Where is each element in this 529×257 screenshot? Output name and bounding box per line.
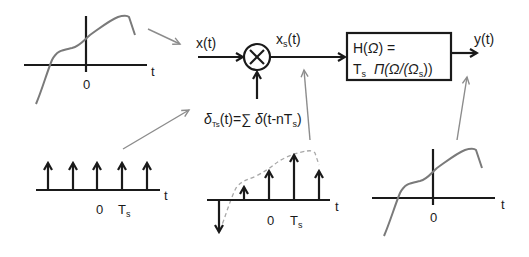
- t-axis-label: t: [335, 199, 339, 214]
- pointer-to-impulse-formula: [123, 110, 189, 149]
- origin-label: 0: [96, 202, 103, 217]
- output-signal-plot: t 0: [372, 149, 505, 236]
- sampling-diagram: t 0 x(t) xs(t) H(Ω) = TsΠ(Ω/(Ωs)) y(t) δ…: [0, 0, 529, 257]
- origin-label: 0: [267, 213, 274, 228]
- reconstruction-filter-block: H(Ω) = TsΠ(Ω/(Ωs)): [347, 33, 451, 80]
- sampled-signal-label: xs(t): [276, 31, 301, 49]
- impulse-train-formula: δTs(t)=∑ δ(t-nTs): [204, 111, 302, 129]
- origin-label: 0: [430, 210, 437, 225]
- t-axis-label: t: [501, 197, 505, 212]
- filter-transfer-line1: H(Ω) =: [353, 40, 395, 56]
- input-label: x(t): [196, 35, 216, 51]
- period-label: Ts: [290, 213, 303, 230]
- t-axis-label: t: [164, 188, 168, 203]
- sampled-signal-plot: t 0 Ts: [207, 151, 339, 232]
- impulse-train-plot: t 0 Ts: [36, 163, 168, 219]
- output-label: y(t): [474, 31, 494, 47]
- multiplier-node: [244, 44, 270, 70]
- pointer-to-input: [148, 29, 180, 44]
- period-label: Ts: [118, 202, 131, 219]
- pointer-to-sampled-signal: [304, 70, 310, 140]
- origin-label: 0: [83, 77, 90, 92]
- input-signal-plot: t 0: [24, 16, 155, 104]
- t-axis-label: t: [151, 64, 155, 79]
- pointer-to-output: [457, 77, 467, 140]
